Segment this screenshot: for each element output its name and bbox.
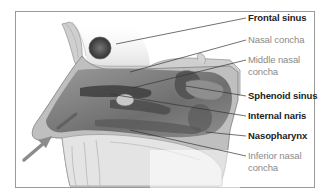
label-inferior-nasal-concha-line2: concha <box>248 162 278 174</box>
tissue-shading <box>75 18 150 66</box>
label-nasal-concha: Nasal concha <box>248 34 304 46</box>
label-nasopharynx: Nasopharynx <box>248 130 307 142</box>
label-middle-nasal-concha-line1: Middle nasal <box>248 54 300 66</box>
label-inferior-nasal-concha-line1: Inferior nasal <box>248 150 302 162</box>
label-middle-nasal-concha-line2: concha <box>248 66 278 78</box>
label-sphenoid-sinus: Sphenoid sinus <box>248 90 317 102</box>
nasopharynx-shape <box>188 104 212 132</box>
label-internal-naris: Internal naris <box>248 110 306 122</box>
label-frontal-sinus: Frontal sinus <box>248 12 306 24</box>
frontal-sinus-shape <box>89 37 111 59</box>
